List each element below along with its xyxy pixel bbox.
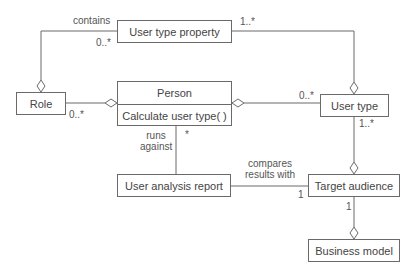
class-person: Person Calculate user type( ) [117, 81, 232, 126]
multiplicity-label: 1..* [240, 16, 255, 27]
edge-usertypeproperty-usertype [232, 31, 354, 82]
class-operations-section: Calculate user type( ) [118, 104, 231, 126]
label-line: against [140, 141, 172, 152]
aggregation-diamond-icon [350, 82, 358, 94]
class-role: Role [16, 92, 66, 115]
class-user-type-property: User type property [117, 20, 232, 43]
label-line: runs [140, 130, 172, 141]
label-line: compares [242, 158, 298, 169]
aggregation-diamond-icon [350, 227, 358, 239]
association-label-compares-results-with: compares results with [242, 158, 298, 180]
multiplicity-label: 1..* [359, 118, 374, 129]
aggregation-diamond-icon [350, 162, 358, 174]
class-name: Business model [315, 245, 393, 257]
class-name: Role [30, 98, 53, 110]
class-name: User type [331, 100, 378, 112]
class-business-model: Business model [308, 239, 400, 262]
class-name: User type property [129, 26, 219, 38]
multiplicity-label: 1 [346, 201, 352, 212]
label-line: results with [242, 169, 298, 180]
class-target-audience: Target audience [308, 174, 400, 197]
class-name: Target audience [315, 180, 393, 192]
aggregation-diamond-icon [232, 99, 244, 107]
class-name: Person [157, 87, 192, 99]
operation: Calculate user type( ) [122, 110, 227, 122]
multiplicity-label: 0..* [96, 37, 111, 48]
class-user-type: User type [320, 94, 389, 117]
class-name: User analysis report [125, 180, 223, 192]
aggregation-diamond-icon [37, 80, 45, 92]
multiplicity-label: 0..* [69, 109, 84, 120]
multiplicity-label: * [185, 129, 189, 140]
class-name-section: Person [118, 82, 231, 104]
aggregation-diamond-icon [105, 99, 117, 107]
association-label-runs-against: runs against [140, 130, 172, 152]
association-label-contains: contains [73, 15, 110, 26]
multiplicity-label: 1 [298, 189, 304, 200]
multiplicity-label: 0..* [299, 90, 314, 101]
class-user-analysis-report: User analysis report [117, 174, 231, 197]
